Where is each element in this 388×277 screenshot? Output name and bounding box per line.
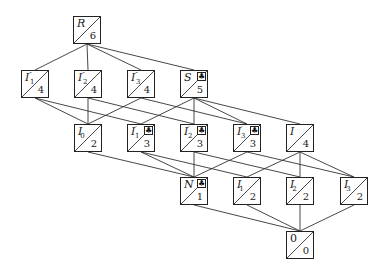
node-label: I″3 [131, 72, 140, 85]
node-label: I2 [290, 179, 297, 192]
edge-S-I1p [141, 98, 194, 124]
node-label: N [184, 179, 194, 191]
club-icon: ♣ [250, 126, 259, 135]
node-I1: I12 [233, 177, 261, 205]
edge-R-I3pp [87, 44, 141, 70]
node-label: I1 [237, 179, 244, 192]
node-value: 4 [303, 138, 309, 150]
edge-I-I1 [247, 152, 300, 177]
node-label: 0 [290, 233, 297, 245]
node-label: I′3 [237, 126, 245, 139]
node-R: R6 [73, 16, 101, 44]
edge-N-Z [194, 205, 300, 231]
node-I2pp: I″24 [74, 70, 102, 98]
lattice-diagram: R6I″14I″24I″34S5♣I02I′13♣I′23♣I′33♣I4N1♣… [0, 0, 388, 277]
edge-S-I [194, 98, 300, 124]
node-I3: I32 [340, 177, 368, 205]
edge-R-S [87, 44, 194, 70]
edge-I3-Z [300, 205, 354, 231]
node-value: 5 [197, 84, 203, 96]
node-S: S5♣ [180, 70, 208, 98]
node-label: R [77, 18, 85, 30]
edge-I3pp-I0 [88, 98, 141, 124]
node-I2: I22 [286, 177, 314, 205]
edge-I0-N [88, 152, 194, 177]
node-value: 2 [91, 138, 97, 150]
node-I: I4 [286, 124, 314, 152]
node-value: 3 [144, 138, 150, 150]
club-icon: ♣ [197, 72, 206, 81]
node-label: I3 [344, 179, 351, 192]
edge-S-I3p [194, 98, 247, 124]
node-value: 1 [197, 191, 203, 203]
club-icon: ♣ [197, 179, 206, 188]
club-icon: ♣ [144, 126, 153, 135]
club-icon: ♣ [197, 126, 206, 135]
node-I3pp: I″34 [127, 70, 155, 98]
node-value: 4 [91, 84, 97, 96]
edge-I3p-N [194, 152, 247, 177]
node-Z: 00 [286, 231, 314, 259]
node-value: 4 [144, 84, 150, 96]
edge-R-I1pp [35, 44, 87, 70]
node-label: I′1 [131, 126, 139, 139]
edge-I1pp-I0 [35, 98, 88, 124]
node-I3p: I′33♣ [233, 124, 261, 152]
node-I1pp: I″14 [21, 70, 49, 98]
node-I1p: I′13♣ [127, 124, 155, 152]
node-label: I′2 [184, 126, 192, 139]
node-value: 2 [303, 191, 309, 203]
node-N: N1♣ [180, 177, 208, 205]
node-value: 6 [90, 30, 96, 42]
node-value: 0 [303, 245, 309, 257]
node-I0: I02 [74, 124, 102, 152]
node-label: I″1 [25, 72, 34, 85]
edge-I2p-I2 [194, 152, 300, 177]
edge-I-I3 [300, 152, 354, 177]
edge-I1p-N [141, 152, 194, 177]
node-label: S [184, 72, 192, 84]
edge-R-I2pp [87, 44, 88, 70]
edge-I3p-I3 [247, 152, 354, 177]
node-label: I [290, 126, 294, 138]
node-value: 3 [250, 138, 256, 150]
edge-I1-Z [247, 205, 300, 231]
node-I2p: I′23♣ [180, 124, 208, 152]
node-value: 3 [197, 138, 203, 150]
node-value: 2 [250, 191, 256, 203]
node-label: I″2 [78, 72, 87, 85]
node-label: I0 [78, 126, 85, 139]
edge-I2pp-I2p [88, 98, 194, 124]
node-value: 2 [357, 191, 363, 203]
node-value: 4 [38, 84, 44, 96]
